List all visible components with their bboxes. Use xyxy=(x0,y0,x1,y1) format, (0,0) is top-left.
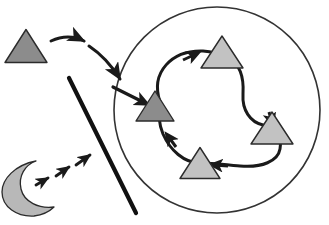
dashed-arrow-segment-2 xyxy=(56,167,69,176)
curved-arrow-outside-descending xyxy=(89,46,120,79)
dashed-arrow-segment-3 xyxy=(76,155,90,165)
curved-arrow-outside-top xyxy=(51,37,84,41)
tour-direction-arrow-to-bottom xyxy=(214,165,228,166)
entry-arrow xyxy=(113,87,149,105)
triangle-inside-entry xyxy=(136,91,174,121)
crescent-moon-shape xyxy=(2,161,54,216)
triangle-outside-start xyxy=(5,30,47,63)
schematic-illustration xyxy=(0,0,329,225)
barrier-line xyxy=(69,78,136,213)
diagram-canvas xyxy=(0,0,329,225)
dashed-arrow-segment-1 xyxy=(36,178,48,185)
tour-direction-arrow-to-top xyxy=(183,54,196,60)
triangle-inside-right xyxy=(251,112,293,144)
